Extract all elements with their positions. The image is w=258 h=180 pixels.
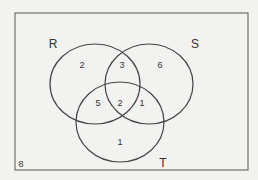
region-s-t: 1	[139, 98, 144, 108]
circle-s	[105, 44, 193, 124]
venn-diagram	[0, 0, 258, 180]
region-r-t: 5	[95, 98, 100, 108]
region-r-only: 2	[79, 60, 84, 70]
region-r-s-t: 2	[117, 98, 122, 108]
set-label-s: S	[191, 37, 199, 51]
set-label-r: R	[49, 37, 58, 51]
circle-t	[76, 82, 164, 162]
set-label-t: T	[159, 156, 166, 170]
region-outside: 8	[18, 159, 23, 169]
region-s-only: 6	[157, 60, 162, 70]
circle-r	[50, 44, 140, 124]
region-r-s: 3	[119, 60, 124, 70]
region-t-only: 1	[117, 137, 122, 147]
